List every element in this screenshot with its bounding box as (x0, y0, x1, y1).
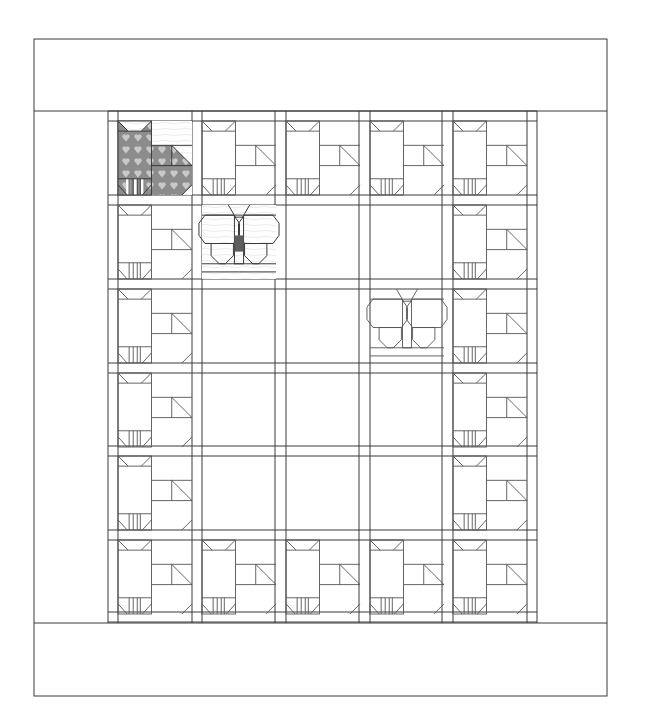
quilt-block-cat (286, 540, 360, 614)
quilt-block-cat (202, 540, 276, 614)
quilt-block-cat (370, 121, 444, 195)
quilt-block-butterfly-fabric (199, 205, 279, 279)
quilt-diagram (0, 0, 647, 726)
quilt-block-cat (453, 373, 527, 447)
quilt-block-cat (453, 456, 527, 530)
quilt-block-cat (286, 121, 360, 195)
quilt-block-cat (453, 121, 527, 195)
quilt-block-cat (118, 373, 192, 447)
quilt-block-cat (453, 205, 527, 279)
quilt-block-cat (453, 289, 527, 363)
quilt-block-cat (118, 289, 192, 363)
quilt-block-butterfly-outline (367, 289, 447, 356)
quilt-block-cat (118, 540, 192, 614)
quilt-block-cat (202, 121, 276, 195)
quilt-block-cat (370, 540, 444, 614)
quilt-block-cat (118, 205, 192, 279)
quilt-block-cat (118, 456, 192, 530)
quilt-block-cat (453, 540, 527, 614)
quilt-block-cat-fabric (118, 121, 192, 195)
